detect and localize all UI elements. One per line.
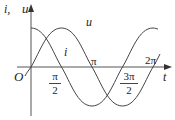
tick-label-two-pi: 2π [145,55,156,66]
curve-u-label: u [86,16,92,28]
origin-label: O [14,70,23,83]
curve-i-label: i [64,46,67,58]
tick-label-pi: π [91,56,97,67]
x-axis-label: t [163,71,166,83]
y-axis-label-prefix: i, [4,3,10,15]
tick-label-three-pi-over-2: 3π 2 [120,71,138,96]
tick-label-pi-over-2: π 2 [49,71,61,96]
y-axis-label: u [22,2,29,15]
